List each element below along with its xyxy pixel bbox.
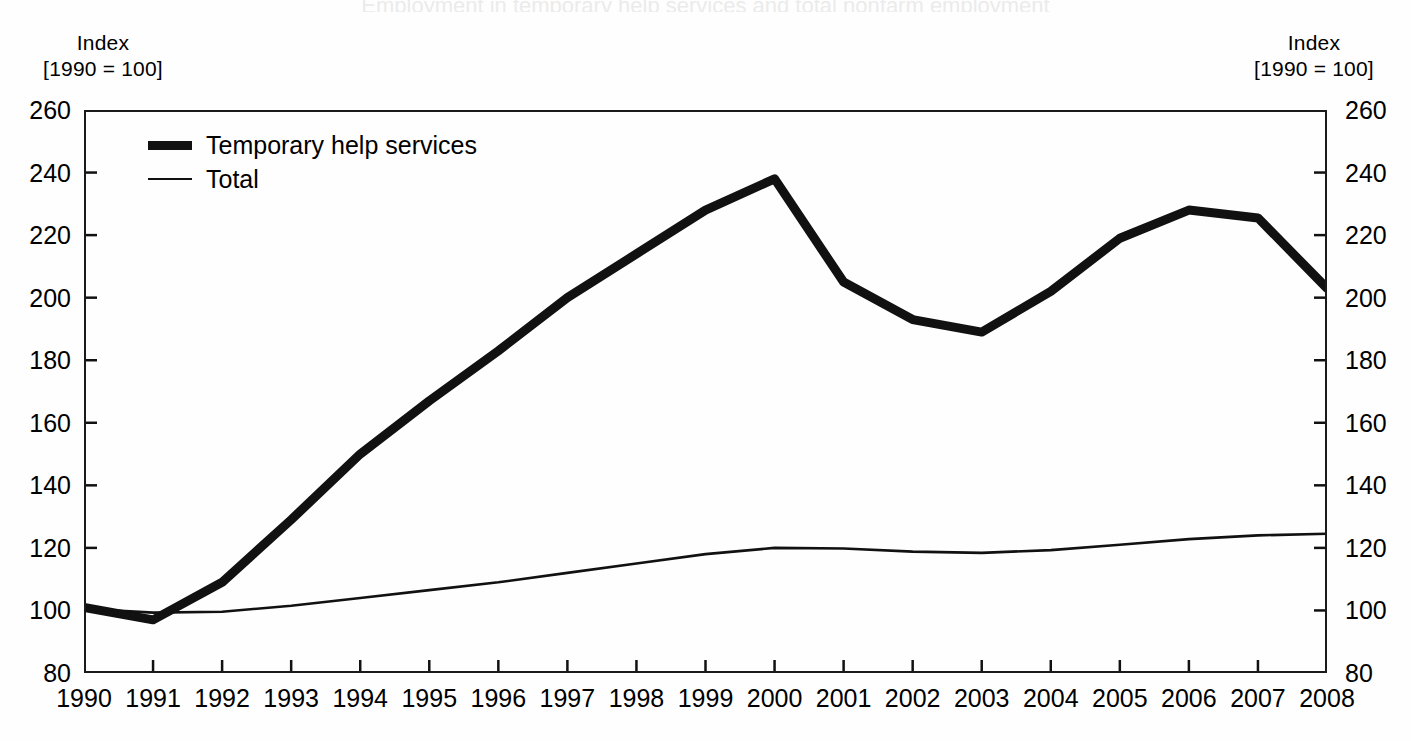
x-axis-tick-label: 2005 xyxy=(1092,686,1148,711)
y-axis-tick-label-left: 140 xyxy=(0,473,71,498)
y-axis-tick-label-right: 100 xyxy=(1345,598,1411,623)
y-axis-tick-label-right: 140 xyxy=(1345,473,1411,498)
y-axis-tick-label-right: 120 xyxy=(1345,535,1411,560)
x-axis-tick-label: 2004 xyxy=(1023,686,1079,711)
y-axis-tick-label-right: 180 xyxy=(1345,348,1411,373)
left-axis-unit-caption: Index [1990 = 100] xyxy=(18,30,188,82)
y-axis-tick-label-right: 80 xyxy=(1345,661,1411,686)
y-axis-tick-label-left: 120 xyxy=(0,535,71,560)
x-axis-tick-label: 1994 xyxy=(332,686,388,711)
legend-line-swatch-icon xyxy=(148,178,192,180)
x-axis-tick-label: 1990 xyxy=(56,686,112,711)
y-axis-tick-label-left: 200 xyxy=(0,285,71,310)
legend-entry: Total xyxy=(148,162,477,196)
legend-entry-label: Temporary help services xyxy=(206,133,477,158)
x-axis-tick-label: 2002 xyxy=(885,686,941,711)
y-axis-tick-label-left: 160 xyxy=(0,410,71,435)
y-axis-tick-label-left: 220 xyxy=(0,223,71,248)
right-axis-unit-line2: [1990 = 100] xyxy=(1229,56,1399,82)
y-axis-tick-label-right: 200 xyxy=(1345,285,1411,310)
x-axis-tick-label: 2001 xyxy=(816,686,872,711)
y-axis-tick-label-left: 180 xyxy=(0,348,71,373)
x-axis-tick-label: 1996 xyxy=(471,686,527,711)
x-axis-tick-label: 1999 xyxy=(678,686,734,711)
x-axis-tick-label: 1991 xyxy=(125,686,181,711)
x-axis-tick-label: 2003 xyxy=(954,686,1010,711)
x-axis-tick-label: 2008 xyxy=(1299,686,1355,711)
x-axis-tick-label: 1995 xyxy=(401,686,457,711)
left-axis-unit-line2: [1990 = 100] xyxy=(18,56,188,82)
y-axis-tick-label-left: 260 xyxy=(0,98,71,123)
y-axis-tick-label-right: 260 xyxy=(1345,98,1411,123)
x-axis-tick-label: 1993 xyxy=(263,686,319,711)
x-axis-tick-label: 2006 xyxy=(1161,686,1217,711)
y-axis-tick-label-left: 240 xyxy=(0,160,71,185)
right-axis-unit-line1: Index xyxy=(1229,30,1399,56)
y-axis-tick-label-left: 100 xyxy=(0,598,71,623)
x-axis-tick-label: 2007 xyxy=(1230,686,1286,711)
x-axis-tick-label: 2000 xyxy=(747,686,803,711)
legend-line-swatch-icon xyxy=(148,141,192,150)
y-axis-tick-label-left: 80 xyxy=(0,661,71,686)
y-axis-tick-label-right: 240 xyxy=(1345,160,1411,185)
right-axis-unit-caption: Index [1990 = 100] xyxy=(1229,30,1399,82)
y-axis-tick-label-right: 160 xyxy=(1345,410,1411,435)
y-axis-tick-label-right: 220 xyxy=(1345,223,1411,248)
cropped-title: Employment in temporary help services an… xyxy=(0,0,1411,12)
x-axis-tick-label: 1992 xyxy=(194,686,250,711)
chart-legend: Temporary help servicesTotal xyxy=(148,128,477,196)
x-axis-tick-label: 1998 xyxy=(609,686,665,711)
legend-entry: Temporary help services xyxy=(148,128,477,162)
legend-entry-label: Total xyxy=(206,167,259,192)
x-axis-tick-label: 1997 xyxy=(540,686,596,711)
left-axis-unit-line1: Index xyxy=(18,30,188,56)
chart-figure: Employment in temporary help services an… xyxy=(0,0,1411,741)
